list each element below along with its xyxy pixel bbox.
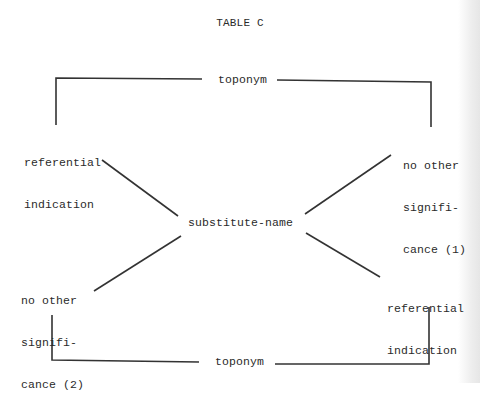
diagonal-lower-left [94,236,181,291]
node-referential-indication-lower: referential indication [387,274,464,372]
node-line: signifi- [21,336,84,350]
diagonal-upper-left [102,160,178,216]
node-line: cance (1) [403,243,466,257]
node-line: no other [21,294,84,308]
diagonal-upper-right [305,155,391,214]
node-line: signifi- [403,201,466,215]
node-toponym-top: toponym [218,73,267,87]
diagram-title: TABLE C [0,17,480,29]
node-no-other-significance-2: no other signifi- cance (2) [21,266,84,394]
node-line: indication [387,344,464,358]
node-substitute-name: substitute-name [188,216,293,230]
node-line: referential [387,302,464,316]
top-left-bracket-line [56,78,202,125]
diagonal-lower-right [306,233,380,277]
node-line: cance (2) [21,378,84,392]
node-referential-indication-upper: referential indication [24,128,101,226]
node-line: referential [24,156,101,170]
node-no-other-significance-1: no other signifi- cance (1) [403,131,466,271]
node-line: no other [403,159,466,173]
top-right-bracket-line [277,80,431,127]
node-toponym-bottom: toponym [215,355,264,369]
node-line: indication [24,198,101,212]
